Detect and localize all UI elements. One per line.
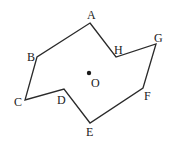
vertex-label-a: A bbox=[87, 8, 96, 22]
polygon-diagram: A H G F E D C B O bbox=[0, 0, 177, 141]
vertex-label-e: E bbox=[86, 125, 93, 139]
vertex-label-f: F bbox=[144, 89, 151, 103]
vertex-label-h: H bbox=[114, 43, 123, 57]
center-point-o bbox=[87, 71, 91, 75]
vertex-label-b: B bbox=[27, 50, 35, 64]
vertex-label-c: C bbox=[14, 95, 22, 109]
diagram-canvas: A H G F E D C B O bbox=[0, 0, 177, 141]
vertex-label-g: G bbox=[154, 31, 163, 45]
center-label-o: O bbox=[91, 76, 100, 90]
vertex-label-d: D bbox=[57, 93, 66, 107]
